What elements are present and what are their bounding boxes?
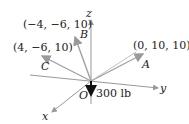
force-diagram: z y x O (−4, −6, 10) B (4, −6, 10) C (0,… [0, 0, 189, 124]
y-axis [30, 75, 158, 88]
x-axis-label: x [42, 110, 49, 123]
origin-label: O [79, 89, 88, 102]
y-axis-label: y [159, 82, 167, 95]
vector-a [91, 54, 143, 81]
vector-a-coords: (0, 10, 10) [133, 39, 189, 52]
vector-c-label: C [41, 60, 50, 73]
vector-a-guide [91, 52, 136, 81]
vector-a-label: A [141, 58, 150, 71]
vector-b-label: B [79, 28, 88, 41]
load-label: 300 lb [96, 87, 131, 100]
vector-c-coords: (4, −6, 10) [13, 41, 73, 54]
